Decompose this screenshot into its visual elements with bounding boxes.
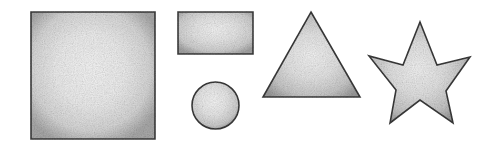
rectangle-shape xyxy=(178,12,253,54)
square-shape xyxy=(31,12,155,139)
star-shape xyxy=(369,22,470,123)
shapes-svg xyxy=(0,0,494,144)
circle-shape xyxy=(192,82,239,129)
triangle-shape xyxy=(263,12,360,97)
shapes-canvas xyxy=(0,0,494,144)
